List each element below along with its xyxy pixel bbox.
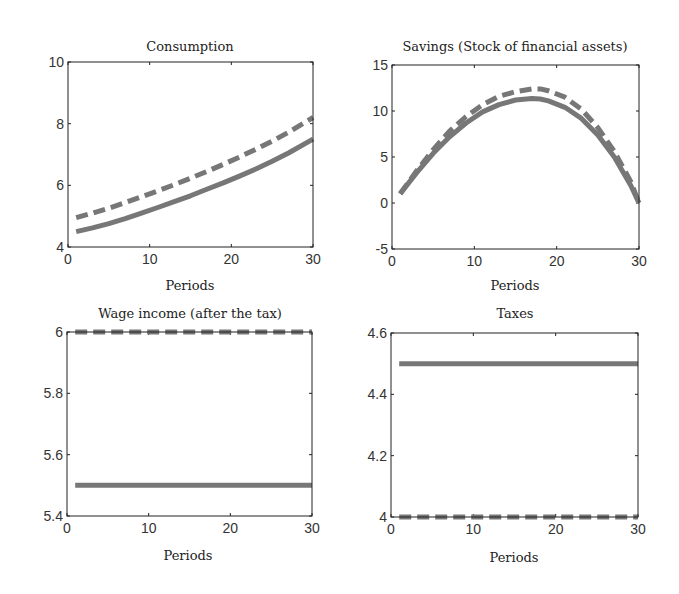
plot-lines [400,89,639,203]
x-tick-label: 10 [141,520,157,536]
figure: Consumption Periods 010203046810 Savings… [0,0,679,594]
x-axis-label: Periods [165,278,214,293]
x-tick-label: 10 [142,251,158,267]
x-tick-label: 20 [224,251,240,267]
x-axis-label: Periods [163,548,212,563]
subplot-savings: Savings (Stock of financial assets) Peri… [372,39,647,293]
y-tick-label: 4.4 [368,386,388,402]
x-tick-label: 0 [387,521,395,537]
x-tick-label: 0 [64,251,72,267]
x-axis-label: Periods [489,550,538,565]
y-tick-label: 0 [380,195,388,211]
axes-frame [68,62,313,247]
y-tick-label: 10 [372,103,388,119]
x-tick-label: 20 [549,253,565,269]
x-tick-label: 20 [548,521,564,537]
x-tick-label: 10 [466,521,482,537]
y-tick-label: 6 [55,324,63,340]
plot-lines [76,118,313,232]
y-tick-label: 4.2 [368,448,388,464]
y-tick-label: 5.4 [44,508,64,524]
plot-lines [399,364,638,517]
x-tick-label: 30 [630,521,646,537]
subplot-title: Savings (Stock of financial assets) [402,39,627,54]
x-tick-label: 30 [305,251,321,267]
y-tick-label: -5 [376,241,389,257]
subplot-consumption: Consumption Periods 010203046810 [48,39,321,293]
dashed-series-line [76,118,313,218]
y-tick-label: 5.8 [44,385,64,401]
axis-ticks: 01020305.45.65.86 [44,324,320,536]
y-tick-label: 5.6 [44,447,64,463]
y-tick-label: 4 [379,509,387,525]
x-tick-label: 20 [223,520,239,536]
subplot-title: Taxes [496,306,533,321]
y-tick-label: 6 [56,177,64,193]
solid-series-line [76,139,313,232]
axis-ticks: 010203044.24.44.6 [368,325,646,537]
y-tick-label: 4.6 [368,325,388,341]
subplot-title: Consumption [146,39,234,54]
y-tick-label: 10 [48,54,64,70]
axis-ticks: 0102030-5051015 [372,57,647,269]
axis-ticks: 010203046810 [48,54,321,267]
y-tick-label: 8 [56,116,64,132]
solid-series-line [400,99,639,203]
x-tick-label: 0 [388,253,396,269]
x-tick-label: 10 [467,253,483,269]
plot-lines [75,332,312,485]
x-axis-label: Periods [490,278,539,293]
subplot-title: Wage income (after the tax) [98,306,282,321]
axes-frame [67,332,312,516]
y-tick-label: 4 [56,239,64,255]
subplot-taxes: Taxes Periods 010203044.24.44.6 [368,306,646,565]
subplot-wage-income: Wage income (after the tax) Periods 0102… [44,306,320,563]
x-tick-label: 30 [304,520,320,536]
y-tick-label: 15 [372,57,388,73]
y-tick-label: 5 [380,149,388,165]
axes-frame [391,333,638,517]
x-tick-label: 30 [631,253,647,269]
x-tick-label: 0 [63,520,71,536]
